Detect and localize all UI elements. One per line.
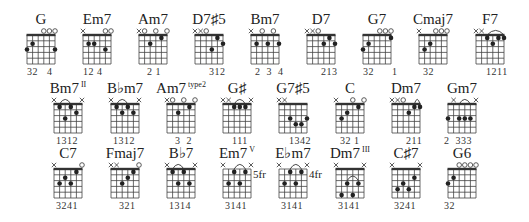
finger-dot-icon xyxy=(451,175,456,180)
finger-dot-icon xyxy=(361,47,366,52)
chord-name: G♯ xyxy=(228,80,247,96)
open-string-icon xyxy=(439,29,444,34)
muted-string-icon xyxy=(52,163,56,167)
chord-position-label: V xyxy=(249,145,255,154)
chord-name: C xyxy=(345,80,355,96)
muted-string-icon xyxy=(249,163,253,167)
chord-diagram: G32 4 xyxy=(25,11,58,77)
chord-diagram: G♯111 xyxy=(221,80,253,146)
finger-dot-icon xyxy=(299,122,304,127)
finger-dot-icon xyxy=(126,175,131,180)
chord-name: Am7type2 xyxy=(156,80,206,96)
finger-dot-icon xyxy=(401,181,406,186)
chord-name: B♭m7 xyxy=(107,80,144,96)
finger-dot-icon xyxy=(356,105,361,110)
finger-dot-icon xyxy=(428,41,433,46)
finger-dot-icon xyxy=(114,105,119,110)
chord-diagram: E♭m74fr3141 xyxy=(275,145,322,211)
finger-dot-icon xyxy=(366,41,371,46)
muted-string-icon xyxy=(479,29,483,33)
muted-string-icon xyxy=(334,163,338,167)
muted-string-icon xyxy=(114,163,118,167)
open-string-icon xyxy=(80,163,85,168)
muted-string-icon xyxy=(221,98,225,102)
finger-dot-icon xyxy=(86,41,91,46)
open-string-icon xyxy=(182,98,187,103)
open-string-icon xyxy=(389,29,394,34)
chord-name: Gm7 xyxy=(447,80,478,96)
finger-dot-icon xyxy=(468,116,473,121)
muted-string-icon xyxy=(305,29,309,33)
finger-dot-icon xyxy=(407,110,412,115)
muted-string-icon xyxy=(81,29,85,33)
open-string-icon xyxy=(142,29,147,34)
open-string-icon xyxy=(137,163,142,168)
chord-diagram: Am7type23 2 xyxy=(156,80,206,146)
open-string-icon xyxy=(434,29,439,34)
open-string-icon xyxy=(109,29,114,34)
finger-dot-icon xyxy=(120,181,125,186)
finger-dot-icon xyxy=(282,181,287,186)
fretboard-grid xyxy=(279,104,307,133)
finger-dot-icon xyxy=(69,105,74,110)
chord-diagram: F71211 xyxy=(474,11,508,77)
finger-dot-icon xyxy=(491,41,496,46)
open-string-icon xyxy=(463,163,468,168)
open-string-icon xyxy=(457,163,462,168)
muted-string-icon xyxy=(137,98,141,102)
fingering-label: 2 1 xyxy=(147,66,161,77)
chord-name: Bm7II xyxy=(50,80,87,96)
finger-dot-icon xyxy=(221,41,226,46)
finger-dot-icon xyxy=(333,41,338,46)
open-string-icon xyxy=(47,29,52,34)
finger-dot-icon xyxy=(418,105,423,110)
finger-dot-icon xyxy=(254,41,259,46)
fingering-label: 3141 xyxy=(281,200,303,211)
fingering-label: 312 xyxy=(209,66,226,77)
muted-string-icon xyxy=(362,163,366,167)
muted-string-icon xyxy=(137,29,141,33)
chord-name: Dm7III xyxy=(330,145,370,161)
open-string-icon xyxy=(260,29,265,34)
finger-dot-icon xyxy=(243,105,248,110)
finger-dot-icon xyxy=(305,116,310,121)
finger-dot-icon xyxy=(232,105,237,110)
finger-dot-icon xyxy=(176,110,181,115)
finger-dot-icon xyxy=(294,181,299,186)
finger-dot-icon xyxy=(148,41,153,46)
finger-dot-icon xyxy=(327,36,332,41)
fingering-label: 1211 xyxy=(486,66,508,77)
finger-dot-icon xyxy=(463,116,468,121)
finger-dot-icon xyxy=(351,193,356,198)
fretboard-grid xyxy=(251,35,279,64)
finger-dot-icon xyxy=(339,116,344,121)
fingering-label: 32 4 xyxy=(27,66,53,77)
finger-dot-icon xyxy=(277,41,282,46)
barre-arc-icon xyxy=(234,164,245,169)
open-string-icon xyxy=(271,29,276,34)
open-string-icon xyxy=(316,29,321,34)
chord-name: E♭m7 xyxy=(275,145,311,161)
fretboard-grid xyxy=(448,169,476,198)
muted-string-icon xyxy=(226,98,230,102)
muted-string-icon xyxy=(390,98,394,102)
muted-string-icon xyxy=(193,163,197,167)
finger-dot-icon xyxy=(170,170,175,175)
fingering-label: 321 xyxy=(119,200,136,211)
muted-string-icon xyxy=(277,98,281,102)
finger-dot-icon xyxy=(187,105,192,110)
finger-dot-icon xyxy=(30,41,35,46)
muted-string-icon xyxy=(109,98,113,102)
chord-name: G7 xyxy=(368,11,387,27)
chord-diagram: G7♯51342 xyxy=(276,80,311,146)
muted-string-icon xyxy=(310,29,314,33)
finger-dot-icon xyxy=(412,105,417,110)
chord-name: B♭7 xyxy=(169,145,194,161)
fretboard-grid xyxy=(363,35,391,64)
finger-dot-icon xyxy=(322,41,327,46)
finger-dot-icon xyxy=(446,116,451,121)
fingering-label: 2 3 4 xyxy=(255,66,284,77)
muted-string-icon xyxy=(193,29,197,33)
finger-dot-icon xyxy=(176,181,181,186)
chord-diagram: Bm72 3 4 xyxy=(249,11,284,77)
